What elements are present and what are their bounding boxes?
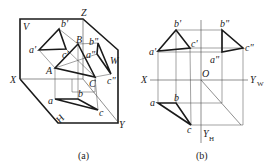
label-b-dprime-a: b" bbox=[89, 36, 99, 47]
label-c-dprime-a: c" bbox=[107, 75, 116, 86]
label-c-prime-a: c' bbox=[62, 49, 69, 60]
label-a-prime-b: a' bbox=[149, 46, 157, 57]
caption-a: (a) bbox=[78, 150, 89, 162]
label-c-top-a: c bbox=[99, 107, 104, 118]
figure-b: b' a' c' b" a" c" X O Y W a b c Y H (b) bbox=[140, 18, 264, 162]
label-axis-yw: Y bbox=[250, 74, 257, 85]
triangle-side-view-a bbox=[97, 43, 111, 74]
label-a-dprime-a: a" bbox=[86, 49, 96, 60]
triangle-side-view-b bbox=[222, 30, 243, 52]
label-b-top-a: b bbox=[78, 88, 83, 99]
label-b-dprime-b: b" bbox=[220, 18, 230, 29]
label-axis-z: Z bbox=[81, 7, 87, 18]
label-axis-x-b: X bbox=[140, 74, 148, 85]
label-b-prime-b: b' bbox=[174, 18, 182, 29]
label-a-top-b: a bbox=[150, 97, 155, 108]
label-a-dprime-b: a" bbox=[210, 54, 220, 65]
label-b-top-b: b bbox=[174, 92, 179, 103]
figure-a: V Z X Y W H b' a' c' B A C b" a" c" a b … bbox=[9, 7, 126, 162]
label-c-prime-b: c' bbox=[191, 38, 198, 49]
label-axis-x: X bbox=[9, 74, 17, 85]
caption-b: (b) bbox=[196, 150, 208, 162]
label-axis-yh-sub: H bbox=[209, 135, 214, 143]
label-point-B: B bbox=[76, 34, 82, 45]
projection-axes-b bbox=[150, 20, 248, 143]
label-axis-yw-sub: W bbox=[257, 80, 264, 88]
label-c-dprime-b: c" bbox=[245, 42, 254, 53]
label-origin-o: O bbox=[202, 68, 209, 79]
label-plane-v: V bbox=[23, 21, 31, 32]
label-a-prime-a: a' bbox=[29, 44, 37, 55]
label-c-top-b: c bbox=[187, 124, 192, 135]
triangle-front-view-b bbox=[158, 30, 190, 51]
label-b-prime-a: b' bbox=[61, 18, 69, 29]
label-a-top-a: a bbox=[48, 95, 53, 106]
triangle-top-view-b bbox=[158, 103, 191, 125]
triangle-front-view-a bbox=[39, 29, 66, 50]
label-axis-y: Y bbox=[119, 119, 126, 130]
projection-diagram: V Z X Y W H b' a' c' B A C b" a" c" a b … bbox=[0, 0, 266, 168]
label-point-A: A bbox=[45, 65, 53, 76]
label-point-C: C bbox=[89, 78, 96, 89]
triangle-top-view-a bbox=[55, 99, 98, 110]
